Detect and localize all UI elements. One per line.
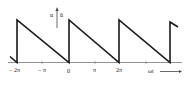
x-axis-label-arrowhead — [179, 70, 182, 73]
tick-label-pi: π — [93, 67, 96, 73]
y-axis-peak-label: û — [60, 12, 63, 18]
y-axis-arrowhead — [56, 7, 59, 11]
tick-label-minus-pi: − π — [38, 67, 46, 73]
tick-label-minus-2pi: − 2π — [9, 67, 20, 73]
x-axis-label: ωt — [148, 68, 154, 74]
sawtooth-chart: u û − 2π − π 0 π 2π ωt — [0, 0, 190, 87]
sawtooth-waveform — [10, 20, 178, 63]
tick-label-zero: 0 — [67, 68, 70, 74]
tick-label-2pi: 2π — [116, 67, 122, 73]
y-axis-label: u — [50, 12, 53, 18]
chart-canvas — [0, 0, 190, 87]
